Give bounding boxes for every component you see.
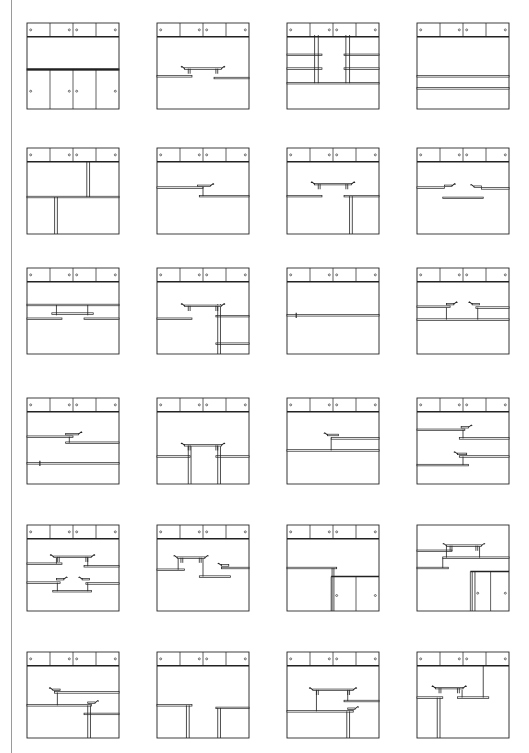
shelf	[214, 77, 249, 79]
knob-icon	[504, 404, 506, 406]
knob-icon	[244, 658, 246, 660]
shelf	[199, 195, 249, 197]
knob-icon	[336, 29, 338, 31]
panel-r4c3	[287, 398, 379, 484]
knob-icon	[68, 658, 70, 660]
shelf	[84, 566, 119, 568]
shelf	[287, 54, 322, 56]
knob-icon	[290, 531, 292, 533]
panel-r3c4	[417, 268, 509, 354]
knob-icon	[290, 658, 292, 660]
shelf	[443, 557, 509, 559]
shelf	[52, 313, 93, 315]
shelf	[472, 303, 479, 305]
shelf	[27, 705, 91, 707]
panel-r6c4	[417, 652, 509, 738]
knob-icon	[328, 274, 330, 276]
knob-icon	[198, 404, 200, 406]
panel-r3c3	[287, 268, 379, 354]
knob-icon	[206, 274, 208, 276]
knob-icon	[30, 404, 32, 406]
knob-icon	[114, 29, 116, 31]
knob-icon	[198, 154, 200, 156]
panel-r2c4	[417, 148, 509, 234]
knob-icon	[504, 658, 506, 660]
shelf	[417, 88, 509, 90]
knob-icon	[206, 531, 208, 533]
shelf	[27, 582, 60, 584]
knob-icon	[504, 592, 506, 594]
shelf	[157, 569, 185, 571]
knob-icon	[76, 90, 78, 92]
knob-icon	[336, 595, 338, 597]
shelf	[287, 567, 337, 569]
knob-icon	[328, 658, 330, 660]
panel-r2c2	[157, 148, 249, 234]
knob-icon	[336, 658, 338, 660]
knob-icon	[68, 404, 70, 406]
knob-icon	[290, 154, 292, 156]
shelf	[84, 713, 119, 715]
knob-icon	[290, 404, 292, 406]
panel-r3c2	[157, 268, 249, 354]
knob-icon	[328, 531, 330, 533]
knob-icon	[290, 274, 292, 276]
knob-icon	[160, 154, 162, 156]
panel-r5c2	[157, 525, 249, 611]
shelf	[443, 197, 483, 199]
knob-icon	[68, 90, 70, 92]
knob-icon	[374, 274, 376, 276]
knob-icon	[328, 154, 330, 156]
knob-icon	[420, 29, 422, 31]
shelf	[417, 429, 465, 431]
knob-icon	[420, 658, 422, 660]
shelf	[331, 438, 379, 440]
knob-icon	[206, 154, 208, 156]
shelf	[27, 318, 62, 320]
knob-icon	[76, 29, 78, 31]
shelf	[435, 687, 463, 689]
panel-r5c4	[417, 525, 509, 611]
knob-icon	[420, 404, 422, 406]
shelf	[157, 318, 192, 320]
shelf	[457, 453, 466, 455]
panel-r1c3	[287, 23, 379, 109]
shelf	[327, 434, 338, 436]
knob-icon	[30, 154, 32, 156]
knob-icon	[30, 29, 32, 31]
knob-icon	[244, 274, 246, 276]
shelf	[53, 689, 60, 691]
knob-icon	[420, 274, 422, 276]
knob-icon	[114, 90, 116, 92]
knob-icon	[504, 29, 506, 31]
panel-r1c4	[417, 23, 509, 109]
shelf	[445, 185, 452, 187]
shelf	[417, 187, 445, 189]
shelf	[27, 436, 73, 438]
shelf	[84, 318, 119, 320]
panel-r5c1	[27, 525, 119, 611]
shelf	[417, 697, 443, 699]
knob-icon	[328, 404, 330, 406]
knob-icon	[30, 274, 32, 276]
shelf	[88, 702, 95, 704]
knob-icon	[30, 658, 32, 660]
knob-icon	[198, 531, 200, 533]
knob-icon	[206, 29, 208, 31]
knob-icon	[114, 658, 116, 660]
shelf	[417, 76, 509, 78]
shelf	[287, 450, 379, 452]
knob-icon	[374, 531, 376, 533]
panel-r1c1	[27, 23, 119, 109]
panel-r2c1	[27, 148, 119, 234]
knob-icon	[198, 274, 200, 276]
shelf	[82, 578, 89, 580]
shelf	[66, 433, 79, 435]
knob-icon	[504, 274, 506, 276]
knob-icon	[160, 658, 162, 660]
shelf	[417, 306, 450, 308]
knob-icon	[466, 658, 468, 660]
panel-r6c3	[287, 652, 379, 738]
knob-icon	[206, 404, 208, 406]
shelf	[56, 578, 63, 580]
